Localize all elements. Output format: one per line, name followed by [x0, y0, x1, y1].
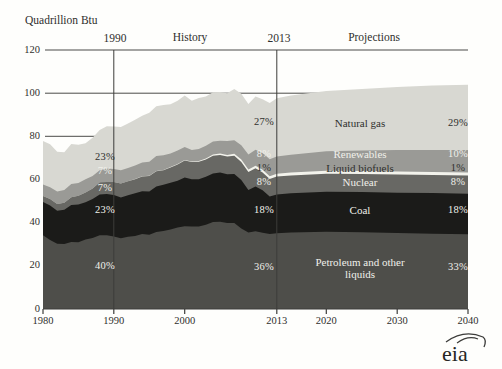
- x-axis-tick-label: 2013: [259, 315, 295, 326]
- y-axis-tick-label: 0: [10, 303, 40, 314]
- share-label-2040-coal: 18%: [436, 204, 480, 215]
- band-label-petroleum: Petroleum and other liquids: [310, 256, 410, 281]
- share-label-1990-natural_gas: 23%: [83, 151, 127, 162]
- share-label-2040-natural_gas: 29%: [436, 117, 480, 128]
- x-axis-tick-label: 1980: [25, 315, 61, 326]
- y-axis-tick-label: 40: [10, 216, 40, 227]
- y-axis-tick-label: 20: [10, 259, 40, 270]
- y-axis-tick-label: 100: [10, 87, 40, 98]
- share-label-2040-biofuels: 1%: [436, 162, 480, 173]
- share-label-1990-nuclear: 7%: [83, 182, 127, 193]
- band-label-nuclear: Nuclear: [295, 176, 425, 189]
- band-label-biofuels: Liquid biofuels: [295, 162, 425, 175]
- share-label-2040-nuclear: 8%: [436, 176, 480, 187]
- x-axis-tick-label: 1990: [96, 315, 132, 326]
- share-label-2013-biofuels: 1%: [242, 162, 286, 173]
- share-label-1990-petroleum: 40%: [83, 260, 127, 271]
- x-axis-tick-label: 2030: [379, 315, 415, 326]
- y-axis-tick-label: 60: [10, 173, 40, 184]
- band-label-renewables: Renewables: [295, 148, 425, 161]
- share-label-1990-renewables: 7%: [83, 165, 127, 176]
- share-label-2013-nuclear: 8%: [242, 176, 286, 187]
- share-label-2013-petroleum: 36%: [242, 261, 286, 272]
- share-label-2013-renewables: 8%: [242, 148, 286, 159]
- y-axis-tick-label: 120: [10, 44, 40, 55]
- x-axis-tick-label: 2040: [450, 315, 486, 326]
- band-label-coal: Coal: [295, 204, 425, 217]
- share-label-2040-petroleum: 33%: [436, 261, 480, 272]
- logo-text: eia: [442, 341, 468, 366]
- share-label-2013-coal: 18%: [242, 204, 286, 215]
- band-label-natural_gas: Natural gas: [295, 117, 425, 130]
- x-axis-tick-label: 2020: [308, 315, 344, 326]
- share-label-2040-renewables: 10%: [436, 148, 480, 159]
- x-axis-tick-label: 2000: [167, 315, 203, 326]
- energy-consumption-chart: Quadrillion Btu 1990 History 2013 Projec…: [0, 0, 502, 369]
- share-label-1990-coal: 23%: [83, 204, 127, 215]
- eia-logo: eia: [432, 328, 496, 368]
- y-axis-tick-label: 80: [10, 130, 40, 141]
- share-label-2013-natural_gas: 27%: [242, 116, 286, 127]
